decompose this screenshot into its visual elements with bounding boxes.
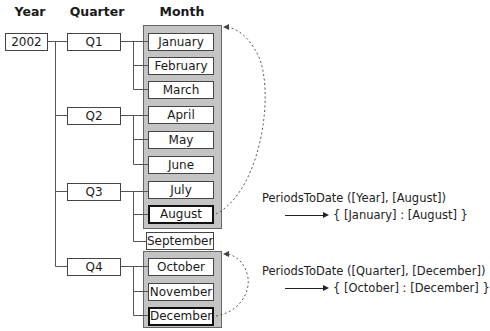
example-1-result-line: { [January] : [August] } — [285, 208, 468, 222]
august-to-january-dotted-arrow — [216, 27, 265, 214]
month-node-september: September — [146, 232, 214, 250]
dotted-arrowhead-january — [223, 24, 229, 30]
month-node-july: July — [148, 181, 214, 199]
dotted-arrowhead-october — [223, 251, 229, 257]
example-2-expression: PeriodsToDate ([Quarter], [December]) — [262, 264, 485, 278]
month-node-may: May — [148, 131, 214, 149]
month-node-december-highlighted: December — [148, 307, 214, 326]
year-node-2002: 2002 — [5, 33, 48, 51]
quarter-node-q4: Q4 — [67, 258, 121, 276]
example-1-expression: PeriodsToDate ([Year], [August]) — [262, 191, 446, 205]
month-node-february: February — [148, 57, 214, 75]
month-node-october: October — [148, 258, 214, 276]
quarter-node-q2: Q2 — [67, 107, 121, 125]
month-node-january: January — [148, 33, 214, 51]
quarter-node-q1: Q1 — [67, 33, 121, 51]
month-node-november: November — [148, 283, 214, 301]
december-to-october-dotted-arrow — [216, 254, 248, 316]
example-1-result: { [January] : [August] } — [333, 208, 468, 222]
example-2-result: { [October] : [December] } — [333, 281, 490, 295]
quarter-node-q3: Q3 — [67, 183, 121, 201]
example-2-result-line: { [October] : [December] } — [285, 281, 490, 295]
month-node-april: April — [148, 106, 214, 124]
month-node-august-highlighted: August — [148, 205, 214, 224]
month-node-june: June — [148, 156, 214, 174]
month-node-march: March — [148, 81, 214, 99]
right-arrow-icon — [285, 288, 327, 289]
right-arrow-icon — [285, 215, 327, 216]
